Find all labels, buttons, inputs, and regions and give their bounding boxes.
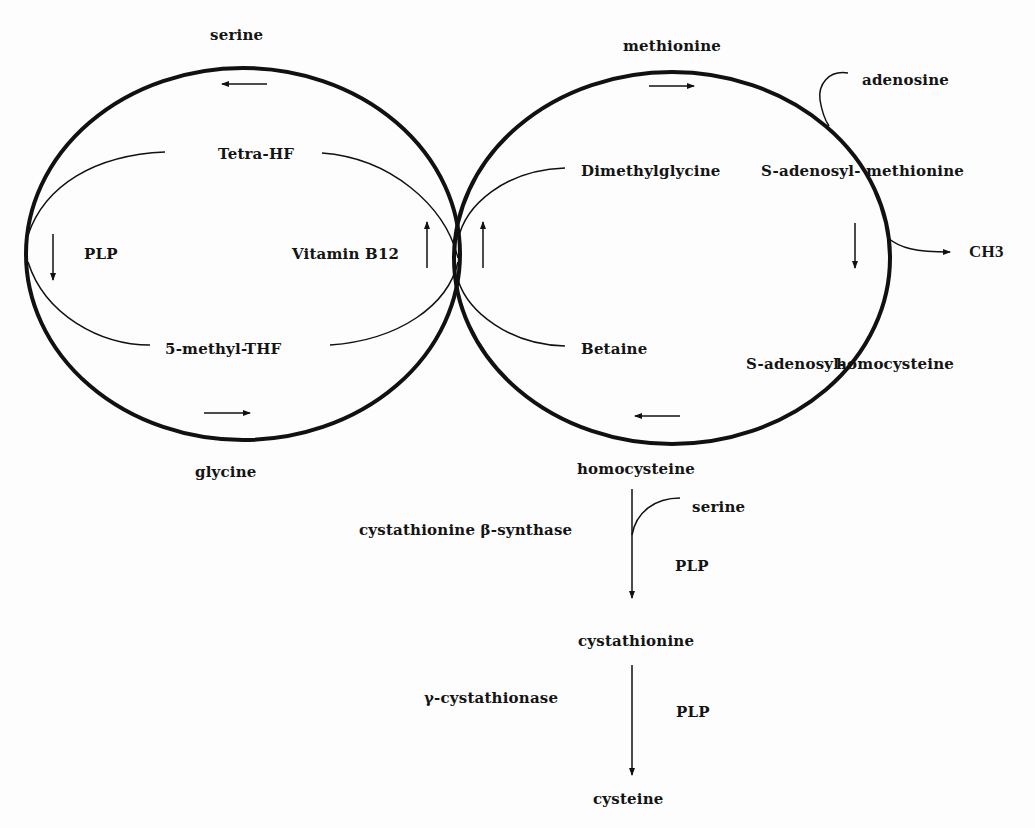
ch3-branch <box>888 238 950 252</box>
label-adenosine: adenosine <box>862 71 949 89</box>
label-serine-top: serine <box>210 26 263 44</box>
label-cysteine: cysteine <box>593 790 664 808</box>
label-s-adenosyl-methionine: S-adenosyl- methionine <box>761 162 964 180</box>
label-betaine: Betaine <box>581 340 647 358</box>
label-s-adenosyl-homocysteine-prefix: S-adenosyl- <box>746 355 846 373</box>
label-tetra-hf: Tetra-HF <box>218 145 294 163</box>
tetra-hf-left-connector <box>28 152 165 235</box>
serine-input-branch <box>632 498 680 535</box>
label-cgl-enzyme: γ-cystathionase <box>424 689 558 707</box>
sam-prefix: S-adenosyl- <box>761 162 861 180</box>
label-cbs-enzyme: cystathionine β-synthase <box>359 521 572 539</box>
label-dimethylglycine: Dimethylglycine <box>581 162 721 180</box>
adenosine-branch <box>820 73 848 126</box>
label-vitamin-b12: Vitamin B12 <box>292 245 399 263</box>
label-serine-cosubstrate: serine <box>692 498 745 516</box>
label-plp-folate: PLP <box>84 245 118 263</box>
sam-suffix: methionine <box>866 162 964 180</box>
label-methionine-top: methionine <box>623 37 721 55</box>
label-plp-cgl: PLP <box>676 703 710 721</box>
pathway-diagram: serine Tetra-HF PLP Vitamin B12 5-methyl… <box>0 0 1035 828</box>
label-cystathionine: cystathionine <box>578 632 694 650</box>
label-plp-cbs: PLP <box>675 557 709 575</box>
label-homocysteine-bottom: homocysteine <box>577 460 695 478</box>
methionine-cycle-ring <box>454 72 890 444</box>
label-glycine: glycine <box>195 463 257 481</box>
label-5-methyl-thf: 5-methyl-THF <box>165 340 281 358</box>
label-ch3: CH3 <box>969 243 1004 261</box>
label-homocysteine-sah: homocysteine <box>836 355 954 373</box>
